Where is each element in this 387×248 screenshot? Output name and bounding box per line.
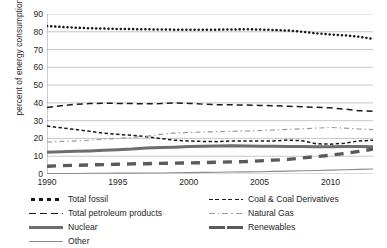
chart-legend: Total fossilTotal petroleum productsNucl… <box>0 193 387 248</box>
legend-key-coal-coal-derivatives-icon <box>208 194 244 205</box>
legend-label: Natural Gas <box>248 208 294 219</box>
plot-area <box>47 14 373 174</box>
legend-swatch-icon <box>29 198 63 201</box>
legend-item-total-fossil[interactable]: Total fossil <box>28 193 108 206</box>
legend-key-total-petroleum-products-icon <box>28 208 64 219</box>
legend-item-nuclear[interactable]: Nuclear <box>28 221 98 234</box>
energy-consumption-line-chart: percent of energy consumption 0102030405… <box>0 0 387 248</box>
legend-key-nuclear-icon <box>28 222 64 233</box>
series-line-other <box>47 169 373 174</box>
legend-label: Other <box>68 236 90 247</box>
y-axis-tick-40: 40 <box>21 99 43 107</box>
legend-label: Total petroleum products <box>68 208 162 219</box>
legend-key-total-fossil-icon <box>28 194 64 205</box>
series-line-nuclear <box>47 146 373 153</box>
y-axis-tick-80: 80 <box>21 28 43 36</box>
legend-swatch-icon <box>209 199 243 201</box>
legend-swatch-icon <box>209 213 243 214</box>
x-axis-tick-1990: 1990 <box>27 177 67 187</box>
legend-swatch-icon <box>227 226 243 230</box>
y-axis-tick-10: 10 <box>21 152 43 160</box>
y-axis-tick-50: 50 <box>21 81 43 89</box>
legend-item-renewables[interactable]: Renewables <box>208 221 295 234</box>
legend-label: Coal & Coal Derivatives <box>248 194 339 205</box>
legend-label: Total fossil <box>68 194 108 205</box>
y-axis-tick-60: 60 <box>21 63 43 71</box>
series-line-coal-coal-derivatives <box>47 126 373 144</box>
legend-item-other[interactable]: Other <box>28 235 90 248</box>
series-line-total-petroleum-products <box>47 103 373 111</box>
legend-swatch-icon <box>29 226 63 229</box>
legend-swatch-icon <box>209 226 225 230</box>
x-axis-tick-labels: 19901995200020052010 <box>0 177 387 191</box>
legend-key-natural-gas-icon <box>208 208 244 219</box>
series-line-natural-gas <box>47 127 373 142</box>
legend-swatch-icon <box>29 241 63 242</box>
legend-key-renewables-icon <box>208 222 244 233</box>
x-axis-tick-2010: 2010 <box>310 177 350 187</box>
legend-swatch-icon <box>29 213 63 215</box>
legend-item-total-petroleum-products[interactable]: Total petroleum products <box>28 207 162 220</box>
legend-item-natural-gas[interactable]: Natural Gas <box>208 207 294 220</box>
y-axis-tick-30: 30 <box>21 117 43 125</box>
y-axis-tick-90: 90 <box>21 10 43 18</box>
y-axis-tick-70: 70 <box>21 46 43 54</box>
series-line-total-fossil <box>47 26 373 39</box>
x-axis-tick-1995: 1995 <box>98 177 138 187</box>
x-axis-tick-2005: 2005 <box>240 177 280 187</box>
legend-item-coal-coal-derivatives[interactable]: Coal & Coal Derivatives <box>208 193 339 206</box>
legend-key-other-icon <box>28 236 64 247</box>
legend-label: Renewables <box>248 222 295 233</box>
x-axis-tick-2000: 2000 <box>169 177 209 187</box>
y-axis-tick-20: 20 <box>21 134 43 142</box>
legend-label: Nuclear <box>68 222 98 233</box>
